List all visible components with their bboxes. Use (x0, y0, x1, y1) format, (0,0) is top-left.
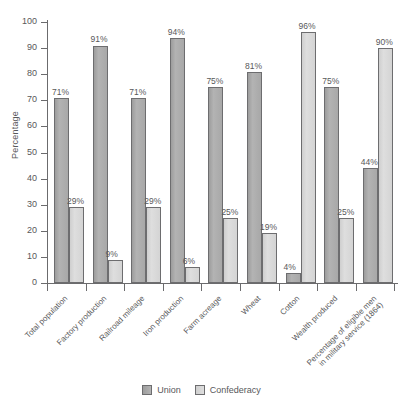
bar-union[interactable] (324, 87, 339, 283)
x-axis-label: Wheat (240, 294, 263, 317)
bar-value-label: 29% (144, 196, 178, 206)
x-axis-label: Farm acreage (182, 294, 224, 336)
y-tick-label: 10 (0, 251, 37, 261)
bar-confederacy[interactable] (185, 267, 200, 283)
y-tick-label: 30 (0, 199, 37, 209)
bar-union[interactable] (208, 87, 223, 283)
bar-group-item: 4% (286, 22, 301, 283)
x-tick-mark (240, 284, 241, 291)
y-tick-mark (41, 22, 47, 23)
x-tick-mark (394, 284, 395, 291)
x-axis-line (47, 283, 398, 284)
y-tick-label: 60 (0, 120, 37, 130)
bar-confederacy[interactable] (301, 32, 316, 283)
chart-legend: Union Confederacy (0, 385, 403, 395)
x-axis-label: Cotton (278, 294, 301, 317)
bar-group-item: 75% (324, 22, 339, 283)
x-tick-mark (163, 284, 164, 291)
x-tick-mark (124, 284, 125, 291)
y-tick-label: 80 (0, 68, 37, 78)
y-tick-label: 100 (0, 16, 37, 26)
y-tick-label: 20 (0, 225, 37, 235)
bar-union[interactable] (170, 38, 185, 283)
union-swatch-icon (142, 385, 152, 395)
bar-group-item: 81% (247, 22, 262, 283)
bar-value-label: 90% (376, 37, 403, 47)
bar-confederacy[interactable] (223, 218, 238, 283)
y-tick-label: 90 (0, 42, 37, 52)
bar-value-label: 96% (299, 21, 333, 31)
y-tick-label: 50 (0, 147, 37, 157)
bar-group-item: 75% (208, 22, 223, 283)
x-axis-label-line: Farm acreage (182, 294, 224, 336)
confederacy-swatch-icon (195, 385, 205, 395)
x-axis-label-line: Percentage of eligible men (305, 294, 378, 367)
bar-value-label: 19% (260, 222, 294, 232)
x-axis-label-line: Wheat (240, 294, 263, 317)
x-tick-mark (356, 284, 357, 291)
bar-confederacy[interactable] (146, 207, 161, 283)
y-tick-mark (41, 74, 47, 75)
bar-group-item: 25% (339, 22, 354, 283)
bar-value-label: 25% (337, 207, 371, 217)
x-tick-mark (47, 284, 48, 291)
y-tick-mark (41, 205, 47, 206)
y-tick-mark (41, 126, 47, 127)
bar-chart: Percentage 1009080706050403020100 71%91%… (0, 0, 403, 406)
bar-group-item: 96% (301, 22, 316, 283)
y-tick-mark (41, 48, 47, 49)
bar-union[interactable] (286, 273, 301, 283)
bar-group-item: 9% (108, 22, 123, 283)
bar-group-item: 90% (378, 22, 393, 283)
bar-union[interactable] (54, 98, 69, 283)
legend-item-confederacy: Confederacy (195, 385, 261, 395)
x-tick-mark (201, 284, 202, 291)
bar-confederacy[interactable] (108, 260, 123, 283)
bar-group-item: 71% (54, 22, 69, 283)
bar-group-item: 91% (93, 22, 108, 283)
y-tick-mark (41, 257, 47, 258)
x-tick-mark (86, 284, 87, 291)
legend-label-confederacy: Confederacy (210, 385, 261, 395)
y-axis-line (47, 20, 48, 284)
y-tick-mark (41, 231, 47, 232)
bar-confederacy[interactable] (69, 207, 84, 283)
x-axis-label-line: Cotton (278, 294, 301, 317)
bar-value-label: 6% (183, 256, 217, 266)
bar-group-item: 71% (131, 22, 146, 283)
x-tick-mark (279, 284, 280, 291)
bar-value-label: 25% (221, 207, 255, 217)
x-axis-label: Percentage of eligible menin military se… (305, 294, 385, 374)
bar-group-item: 25% (223, 22, 238, 283)
bar-group-item: 44% (363, 22, 378, 283)
bar-group-item: 29% (69, 22, 84, 283)
bar-group-item: 6% (185, 22, 200, 283)
y-tick-mark (41, 179, 47, 180)
y-tick-mark (41, 100, 47, 101)
y-tick-label: 70 (0, 94, 37, 104)
bar-value-label: 29% (67, 196, 101, 206)
legend-item-union: Union (142, 385, 181, 395)
y-tick-label: 40 (0, 173, 37, 183)
bar-group-item: 19% (262, 22, 277, 283)
bar-group-item: 29% (146, 22, 161, 283)
bar-confederacy[interactable] (262, 233, 277, 283)
y-tick-label: 0 (0, 277, 37, 287)
bar-confederacy[interactable] (378, 48, 393, 283)
legend-label-union: Union (157, 385, 181, 395)
x-tick-mark (317, 284, 318, 291)
x-axis-label-line: Iron production (141, 294, 185, 338)
bar-value-label: 9% (106, 249, 140, 259)
bar-union[interactable] (93, 46, 108, 284)
bar-confederacy[interactable] (339, 218, 354, 283)
bar-group-item: 94% (170, 22, 185, 283)
bar-union[interactable] (247, 72, 262, 283)
x-axis-label: Iron production (141, 294, 185, 338)
bar-union[interactable] (363, 168, 378, 283)
y-tick-mark (41, 153, 47, 154)
